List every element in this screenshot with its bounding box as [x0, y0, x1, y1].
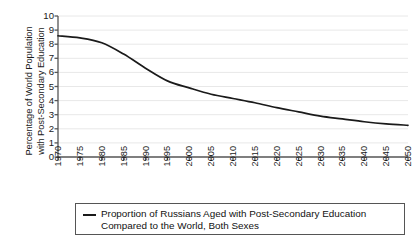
y-axis-tick-label: 5 — [32, 82, 54, 92]
y-axis-tick-label: 1 — [32, 138, 54, 148]
y-axis-tick-label: 8 — [32, 39, 54, 49]
x-axis-tick-label: 1980 — [97, 146, 107, 180]
x-axis-tick-label: 2035 — [337, 146, 347, 180]
legend-label-line-1: Proportion of Russians Aged with Post-Se… — [101, 208, 366, 220]
x-axis-tick-labels: 1970197519801985199019952000200520102015… — [58, 158, 408, 198]
y-axis-tick-label: 10 — [32, 11, 54, 21]
x-axis-tick-label: 1985 — [119, 146, 129, 180]
chart-canvas — [58, 16, 408, 157]
y-axis-tick-label: 7 — [32, 53, 54, 63]
legend-line-swatch-icon — [83, 214, 96, 216]
y-axis-tick-label: 6 — [32, 67, 54, 77]
axis-ticks — [55, 16, 409, 161]
y-axis-tick-label: 3 — [32, 110, 54, 120]
x-axis-tick-label: 2005 — [206, 146, 216, 180]
x-axis-tick-label: 2015 — [250, 146, 260, 180]
x-axis-tick-label: 2050 — [403, 146, 413, 180]
x-axis-tick-label: 1970 — [53, 146, 63, 180]
legend-label-line-2: Compared to the World, Both Sexes — [101, 220, 366, 232]
y-axis-tick-label: 9 — [32, 25, 54, 35]
x-axis-tick-label: 1990 — [141, 146, 151, 180]
x-axis-tick-label: 2010 — [228, 146, 238, 180]
y-axis-tick-label: 2 — [32, 124, 54, 134]
chart-figure: Percentage of World Population with Post… — [0, 0, 419, 247]
x-axis-tick-label: 2045 — [381, 146, 391, 180]
y-axis-tick-label: 4 — [32, 96, 54, 106]
y-axis-tick-label: 0 — [32, 152, 54, 162]
x-axis-tick-label: 1975 — [75, 146, 85, 180]
plot-area — [58, 16, 408, 157]
legend-label: Proportion of Russians Aged with Post-Se… — [101, 208, 366, 231]
x-axis-tick-label: 2020 — [272, 146, 282, 180]
x-axis-tick-label: 2025 — [294, 146, 304, 180]
x-axis-tick-label: 2000 — [184, 146, 194, 180]
gridlines — [58, 16, 408, 143]
chart-legend: Proportion of Russians Aged with Post-Se… — [75, 203, 405, 235]
x-axis-tick-label: 1995 — [162, 146, 172, 180]
x-axis-tick-label: 2030 — [316, 146, 326, 180]
x-axis-tick-label: 2040 — [359, 146, 369, 180]
data-series-line — [58, 36, 408, 126]
y-axis-tick-labels: 012345678910 — [30, 16, 54, 157]
